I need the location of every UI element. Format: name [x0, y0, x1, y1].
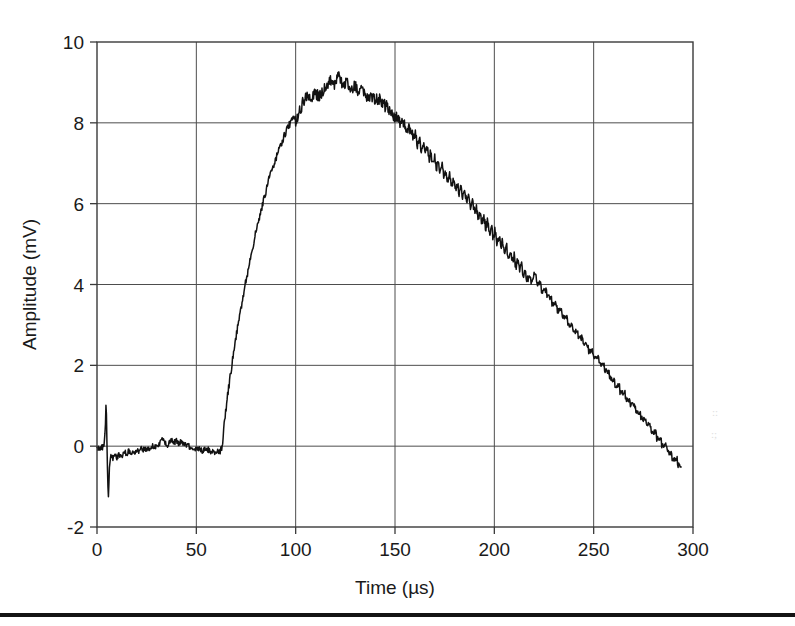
x-tick-label: 50 [186, 539, 207, 560]
scan-artifact-upper: :: [712, 406, 718, 418]
chart-plot: -20246810050100150200250300Time (µs)Ampl… [0, 0, 795, 626]
label-layer: -20246810050100150200250300Time (µs)Ampl… [19, 32, 709, 598]
y-tick-label: 4 [73, 275, 84, 296]
x-tick-label: 250 [578, 539, 610, 560]
footer-rule [0, 613, 795, 617]
y-tick-label: 2 [73, 355, 84, 376]
y-tick-label: -2 [67, 517, 84, 538]
y-tick-label: 6 [73, 194, 84, 215]
x-tick-label: 100 [280, 539, 312, 560]
y-tick-label: 10 [63, 32, 84, 53]
x-tick-label: 150 [379, 539, 411, 560]
y-tick-label: 8 [73, 113, 84, 134]
y-tick-label: 0 [73, 436, 84, 457]
y-axis-title: Amplitude (mV) [19, 219, 40, 350]
x-tick-label: 0 [92, 539, 103, 560]
x-tick-label: 200 [478, 539, 510, 560]
x-axis-title: Time (µs) [355, 577, 435, 598]
x-tick-label: 300 [677, 539, 709, 560]
scan-artifact-lower: :; [711, 428, 717, 440]
figure-canvas: -20246810050100150200250300Time (µs)Ampl… [0, 0, 795, 626]
